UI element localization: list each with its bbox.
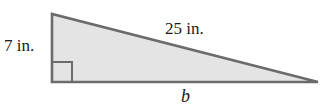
geometry-figure: 7 in. 25 in. b [0, 0, 325, 112]
base-variable-label: b [181, 87, 190, 105]
right-triangle-shape [0, 0, 325, 112]
leg-length-label: 7 in. [4, 37, 34, 54]
hypotenuse-length-label: 25 in. [165, 20, 204, 37]
